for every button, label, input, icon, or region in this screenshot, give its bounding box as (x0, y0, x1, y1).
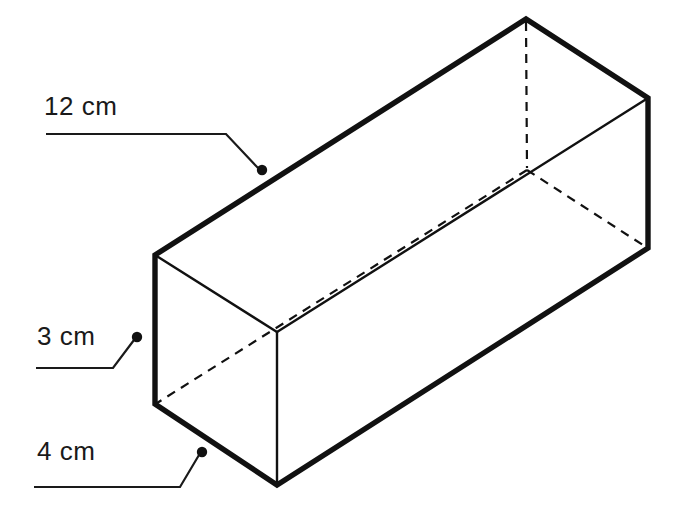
dimension-label-depth: 4 cm (37, 438, 95, 464)
prism-outline (155, 19, 648, 485)
hidden-edge-back-vertical (526, 22, 527, 168)
leader-line-length (46, 134, 258, 168)
diagram-canvas: 12 cm 3 cm 4 cm (0, 0, 683, 509)
hidden-edge-back-to-right (527, 170, 646, 247)
edge-top-left-to-front-mid (155, 255, 277, 332)
interior-edges-group (155, 98, 648, 485)
dimension-label-height: 3 cm (37, 323, 95, 349)
dimension-label-length: 12 cm (44, 93, 117, 119)
leader-dot-length (257, 165, 267, 175)
hidden-edges-group (157, 22, 646, 403)
leader-dots-group (132, 165, 267, 457)
leader-dot-depth (197, 447, 207, 457)
hidden-edge-back-to-left (157, 170, 527, 403)
leader-dot-height (132, 332, 142, 342)
leader-lines-group (34, 134, 258, 487)
prism-figure (0, 0, 683, 509)
edge-front-mid-to-top-right (277, 98, 648, 332)
